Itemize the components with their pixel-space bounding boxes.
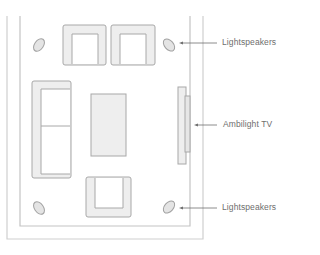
arrow-tv xyxy=(194,123,217,126)
speaker-top-right xyxy=(161,37,177,54)
label-top-lightspeakers: Lightspeakers xyxy=(222,37,276,47)
ambilight-tv xyxy=(178,87,190,164)
armchair-top-right xyxy=(111,25,155,65)
armchair-top-left xyxy=(63,25,106,65)
label-bottom-lightspeakers: Lightspeakers xyxy=(222,202,276,212)
arrow-bottom-speakers xyxy=(179,206,217,209)
arrow-top-speakers xyxy=(179,41,217,44)
label-ambilight-tv: Ambilight TV xyxy=(223,119,272,129)
speaker-bottom-left xyxy=(31,200,46,217)
sofa-left xyxy=(32,81,71,178)
coffee-table xyxy=(91,94,126,156)
speaker-bottom-right xyxy=(161,199,177,216)
armchair-bottom xyxy=(86,177,131,217)
speaker-top-left xyxy=(31,37,46,54)
